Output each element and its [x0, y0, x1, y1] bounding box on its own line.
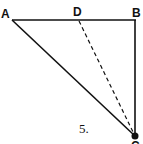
- figure-caption: 5.: [79, 121, 89, 136]
- segment-dc-dashed: [79, 21, 134, 134]
- label-a: A: [1, 7, 10, 21]
- label-d: D: [73, 5, 82, 19]
- segment-ac: [12, 20, 135, 136]
- label-c: C: [131, 139, 140, 144]
- label-b: B: [132, 6, 141, 20]
- triangle-diagram: A D B C 5.: [0, 0, 143, 144]
